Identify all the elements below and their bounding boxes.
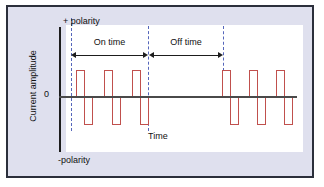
on-time-label: On time (71, 37, 148, 47)
zero-baseline (59, 96, 297, 98)
arrow-right-head-icon (218, 52, 223, 58)
pulse-negative-5 (257, 97, 266, 125)
pulse-negative-1 (84, 97, 93, 125)
y-axis-line (59, 27, 61, 152)
pulse-negative-2 (112, 97, 121, 125)
y-axis-zero-tick-label: 0 (44, 89, 49, 99)
arrow-shaft (75, 55, 144, 56)
x-axis-title: Time (148, 131, 168, 141)
pulse-positive-5 (249, 70, 258, 97)
positive-polarity-label: + polarity (63, 16, 100, 26)
pulse-positive-2 (104, 70, 113, 97)
on-time-span-arrow (71, 51, 148, 60)
y-axis-title: Current amplitude (28, 36, 38, 136)
arrow-right-head-icon (143, 52, 148, 58)
pulse-positive-1 (76, 70, 85, 97)
guide-line-3 (223, 26, 224, 71)
pulse-negative-6 (284, 97, 293, 125)
off-time-span-arrow (149, 51, 223, 60)
pulse-positive-4 (222, 70, 231, 97)
guide-line-1 (71, 18, 72, 131)
pulse-negative-4 (230, 97, 239, 125)
pulse-positive-3 (132, 70, 141, 97)
figure-panel: 0 Current amplitude Time + polarity -pol… (6, 5, 314, 178)
arrow-shaft (153, 55, 219, 56)
pulse-negative-3 (140, 97, 149, 125)
off-time-label: Off time (149, 37, 223, 47)
figure-root: 0 Current amplitude Time + polarity -pol… (0, 0, 324, 187)
negative-polarity-label: -polarity (58, 155, 90, 165)
pulse-positive-6 (276, 70, 285, 97)
